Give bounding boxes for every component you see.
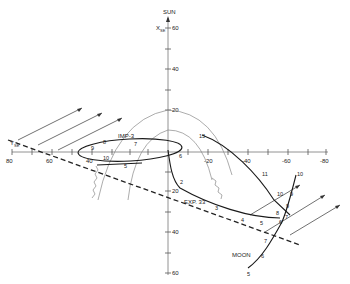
moon-label: MOON bbox=[232, 252, 251, 258]
svg-text:80: 80 bbox=[6, 158, 13, 164]
arrow-head-icon bbox=[335, 205, 340, 209]
svg-text:4: 4 bbox=[241, 217, 244, 223]
exp33-orbit: 2 EXP. 33 3 4 5 6 7 8 9 10 11 13 bbox=[168, 133, 290, 226]
x-se-label: XSE bbox=[156, 25, 166, 33]
exp33-label: EXP. 33 bbox=[184, 199, 206, 205]
svg-text:20: 20 bbox=[172, 188, 179, 194]
svg-text:60: 60 bbox=[46, 158, 53, 164]
svg-text:7: 7 bbox=[285, 214, 288, 220]
svg-text:13: 13 bbox=[199, 133, 205, 139]
svg-text:8: 8 bbox=[103, 139, 106, 145]
svg-text:8: 8 bbox=[276, 210, 279, 216]
svg-text:5: 5 bbox=[247, 271, 250, 277]
svg-text:-80: -80 bbox=[320, 158, 329, 164]
svg-text:9: 9 bbox=[290, 191, 293, 197]
arrow-head-icon bbox=[77, 108, 82, 112]
svg-text:3: 3 bbox=[215, 205, 218, 211]
sun-arrow-icon bbox=[166, 16, 170, 22]
svg-text:5: 5 bbox=[260, 220, 263, 226]
dashed-line bbox=[8, 140, 300, 245]
arrow-head-icon bbox=[97, 113, 102, 117]
imp3-label: IMP-3 bbox=[118, 133, 135, 139]
svg-text:9: 9 bbox=[91, 145, 94, 151]
svg-text:40: 40 bbox=[172, 66, 179, 72]
sun-label: SUN bbox=[163, 9, 176, 15]
flow-arrows-left bbox=[18, 108, 122, 150]
svg-text:2: 2 bbox=[180, 179, 183, 185]
svg-text:-60: -60 bbox=[282, 158, 291, 164]
svg-text:5: 5 bbox=[124, 163, 127, 169]
orbit-diagram: SUN XSE 60 40 20 20 40 60 YSE 80 60 40 bbox=[0, 0, 350, 284]
svg-text:20: 20 bbox=[172, 107, 179, 113]
boundary-curves bbox=[92, 110, 232, 200]
svg-text:40: 40 bbox=[172, 229, 179, 235]
arrow-head-icon bbox=[295, 185, 300, 189]
svg-text:7: 7 bbox=[134, 141, 137, 147]
arrow-head-icon bbox=[117, 118, 122, 122]
svg-text:6: 6 bbox=[261, 253, 264, 259]
svg-text:6: 6 bbox=[179, 153, 182, 159]
arrow-head-icon bbox=[320, 195, 325, 199]
flow-arrows-right bbox=[250, 185, 340, 235]
svg-text:60: 60 bbox=[172, 270, 179, 276]
svg-text:10: 10 bbox=[103, 155, 109, 161]
svg-text:7: 7 bbox=[264, 238, 267, 244]
svg-text:10: 10 bbox=[277, 191, 283, 197]
svg-text:10: 10 bbox=[297, 171, 303, 177]
svg-text:11: 11 bbox=[262, 171, 268, 177]
svg-text:60: 60 bbox=[172, 25, 179, 31]
